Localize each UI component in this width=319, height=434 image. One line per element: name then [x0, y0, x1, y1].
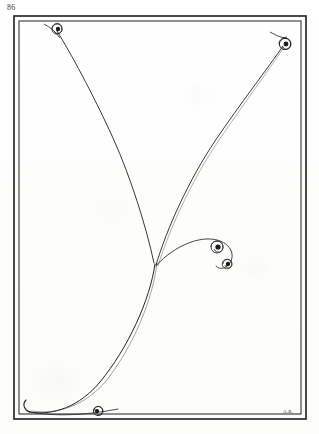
spiral-top-left — [44, 23, 62, 38]
spiral-top-right-leaf — [270, 32, 287, 38]
spiral-center-upper-dot — [215, 244, 220, 249]
artist-monogram: A.B. — [283, 409, 293, 414]
spiral-center-lower-dot — [226, 262, 230, 266]
center-scroll-spirals — [211, 241, 232, 269]
stroke-sweep-upper-left — [57, 31, 154, 263]
spiral-bottom-left-dot — [95, 409, 99, 413]
stroke-sweep-upper-right-hairline — [158, 47, 284, 266]
stroke-center-scroll-arc — [156, 239, 232, 266]
spiral-top-left-dot — [56, 27, 60, 31]
calligraphic-plate-drawing — [0, 0, 319, 434]
stroke-bottom-left-hook — [24, 400, 30, 412]
spiral-top-right-dot — [284, 42, 289, 47]
spiral-center-upper — [211, 241, 223, 253]
spiral-top-right — [270, 32, 291, 50]
flourish-strokes — [24, 31, 284, 415]
corner-spiral-ornaments — [44, 23, 291, 415]
stroke-sweep-upper-right — [156, 46, 283, 265]
scanned-plate-page: 86 — [0, 0, 319, 434]
double-rule-border — [14, 16, 306, 419]
stroke-sweep-lower-left-hairline — [32, 263, 157, 412]
stroke-sweep-lower-left — [30, 264, 155, 413]
spiral-center-lower — [222, 259, 232, 269]
border-outer-rule — [14, 16, 306, 419]
